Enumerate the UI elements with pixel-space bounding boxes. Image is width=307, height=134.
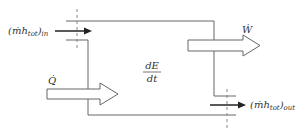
inlet-label: (ṁhtot)in <box>8 25 49 38</box>
inlet-flow-arrow-icon <box>55 28 92 35</box>
work-arrow-icon <box>188 35 260 56</box>
work-label: Ẇ <box>242 24 253 35</box>
heat-label: Q̇ <box>48 75 56 86</box>
rate-denominator: dt <box>147 73 158 84</box>
rate-numerator: dE <box>145 60 159 71</box>
heat-arrow-icon <box>47 83 118 105</box>
control-volume-diagram: (ṁhtot)in (ṁhtot)out Ẇ Q̇ dE dt <box>0 0 307 134</box>
outlet-label: (ṁhtot)out <box>250 99 295 112</box>
outlet-flow-arrow-icon <box>210 102 246 109</box>
energy-rate-fraction: dE dt <box>143 60 161 84</box>
